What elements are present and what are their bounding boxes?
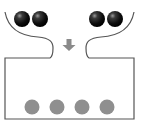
down-arrow-icon (63, 39, 76, 51)
dark-ball (14, 11, 30, 27)
dark-ball (32, 11, 48, 27)
left-funnel-and-container-outline (5, 12, 134, 119)
dark-ball (107, 11, 123, 27)
grey-ball (50, 100, 65, 115)
funnel-container-diagram (0, 0, 142, 125)
grey-ball (25, 100, 40, 115)
dark-ball (89, 11, 105, 27)
left-funnel-balls (14, 11, 48, 27)
container-balls (25, 100, 115, 115)
diagram-canvas (0, 0, 142, 125)
right-funnel-balls (89, 11, 123, 27)
grey-ball (100, 100, 115, 115)
grey-ball (75, 100, 90, 115)
